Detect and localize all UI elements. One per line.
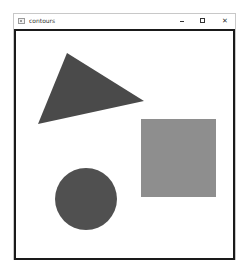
- circle-shape: [55, 168, 117, 230]
- image-canvas: [14, 29, 235, 260]
- square-shape: [141, 119, 216, 197]
- shapes-drawing: [1, 1, 248, 269]
- triangle-shape: [38, 53, 144, 124]
- contours-window: contours ✕: [13, 13, 236, 260]
